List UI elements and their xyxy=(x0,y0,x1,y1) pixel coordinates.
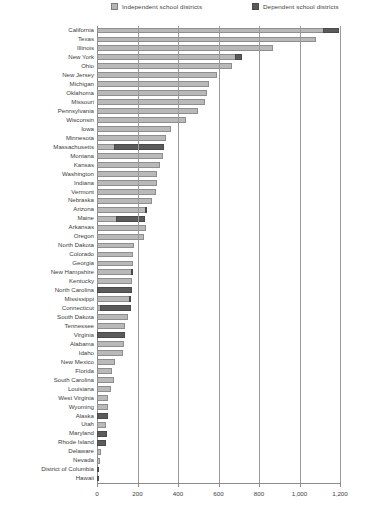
stacked-bar[interactable] xyxy=(97,54,242,60)
stacked-bar[interactable] xyxy=(97,72,217,78)
gridline xyxy=(178,26,179,483)
category-label: Washington xyxy=(62,171,94,177)
stacked-bar[interactable] xyxy=(97,476,99,482)
stacked-bar[interactable] xyxy=(97,135,166,141)
stacked-bar[interactable] xyxy=(97,440,106,446)
legend-label-dependent: Dependent school districts xyxy=(263,3,339,10)
category-label: Ohio xyxy=(81,63,94,69)
gridline xyxy=(340,26,341,483)
category-label: Texas xyxy=(78,36,94,42)
stacked-bar[interactable] xyxy=(97,198,152,204)
category-label: Oklahoma xyxy=(66,90,94,96)
stacked-bar[interactable] xyxy=(97,431,107,437)
stacked-bar[interactable] xyxy=(97,359,115,365)
bar-segment-dependent xyxy=(145,207,147,213)
stacked-bar[interactable] xyxy=(97,37,316,43)
stacked-bar[interactable] xyxy=(97,332,125,338)
category-label: New York xyxy=(68,54,94,60)
x-tick xyxy=(259,483,260,487)
stacked-bar[interactable] xyxy=(97,467,99,473)
stacked-bar[interactable] xyxy=(97,243,134,249)
category-label: Tennessee xyxy=(65,323,94,329)
category-label: Alaska xyxy=(76,413,94,419)
x-tick xyxy=(340,483,341,487)
legend-swatch-dependent-icon xyxy=(252,3,259,10)
stacked-bar[interactable] xyxy=(97,269,133,275)
stacked-bar[interactable] xyxy=(97,261,133,267)
stacked-bar[interactable] xyxy=(97,449,101,455)
bar-segment-dependent xyxy=(116,216,144,222)
stacked-bar[interactable] xyxy=(97,341,124,347)
bar-segment-independent xyxy=(97,252,133,258)
bar-segment-independent xyxy=(97,350,123,356)
bar-segment-independent xyxy=(97,117,186,123)
stacked-bar[interactable] xyxy=(97,404,108,410)
bar-segment-independent xyxy=(97,189,156,195)
category-label: Idaho xyxy=(79,350,94,356)
bar-segment-dependent xyxy=(97,476,99,482)
x-tick-label: 200 xyxy=(132,490,142,497)
stacked-bar[interactable] xyxy=(97,90,207,96)
bar-segment-independent xyxy=(97,108,198,114)
bar-segment-independent xyxy=(97,63,232,69)
x-tick-label: 400 xyxy=(173,490,183,497)
stacked-bar[interactable] xyxy=(97,287,132,293)
stacked-bar[interactable] xyxy=(97,323,125,329)
stacked-bar[interactable] xyxy=(97,413,108,419)
category-label: Oregon xyxy=(74,233,94,239)
category-label: Georgia xyxy=(72,260,94,266)
stacked-bar[interactable] xyxy=(97,171,157,177)
category-label: Colorado xyxy=(69,251,94,257)
category-label: Kansas xyxy=(74,162,94,168)
stacked-bar[interactable] xyxy=(97,458,100,464)
stacked-bar[interactable] xyxy=(97,162,160,168)
stacked-bar[interactable] xyxy=(97,377,114,383)
stacked-bar[interactable] xyxy=(97,180,157,186)
stacked-bar[interactable] xyxy=(97,45,273,51)
bar-segment-independent xyxy=(97,422,106,428)
bar-segment-independent xyxy=(97,449,101,455)
stacked-bar[interactable] xyxy=(97,314,128,320)
stacked-bar[interactable] xyxy=(97,296,131,302)
bar-segment-independent xyxy=(97,45,273,51)
bar-segment-independent xyxy=(97,90,207,96)
bar-segment-independent xyxy=(97,404,108,410)
stacked-bar[interactable] xyxy=(97,305,131,311)
stacked-bar[interactable] xyxy=(97,386,111,392)
category-label: Nebraska xyxy=(68,197,94,203)
stacked-bar[interactable] xyxy=(97,99,205,105)
stacked-bar[interactable] xyxy=(97,81,209,87)
stacked-bar[interactable] xyxy=(97,278,132,284)
stacked-bar[interactable] xyxy=(97,395,108,401)
stacked-bar[interactable] xyxy=(97,422,106,428)
bar-segment-independent xyxy=(97,377,114,383)
stacked-bar[interactable] xyxy=(97,117,186,123)
stacked-bar[interactable] xyxy=(97,126,171,132)
x-tick xyxy=(219,483,220,487)
bar-segment-dependent xyxy=(323,28,339,34)
bar-segment-independent xyxy=(97,135,166,141)
bar-segment-independent xyxy=(97,216,116,222)
category-label: Minnesota xyxy=(66,135,94,141)
category-label: Nevada xyxy=(73,457,94,463)
stacked-bar[interactable] xyxy=(97,252,133,258)
stacked-bar[interactable] xyxy=(97,144,164,150)
bar-segment-independent xyxy=(97,314,128,320)
category-label: Wisconsin xyxy=(66,117,94,123)
plot-area: CaliforniaTexasIllinoisNew YorkOhioNew J… xyxy=(97,26,340,483)
category-label: Delaware xyxy=(68,448,94,454)
stacked-bar[interactable] xyxy=(97,108,198,114)
gridline xyxy=(300,26,301,483)
stacked-bar[interactable] xyxy=(97,350,123,356)
stacked-bar[interactable] xyxy=(97,207,147,213)
bar-segment-independent xyxy=(97,198,152,204)
category-label: Illinois xyxy=(77,45,94,51)
stacked-bar[interactable] xyxy=(97,368,112,374)
stacked-bar[interactable] xyxy=(97,189,156,195)
category-label: Indiana xyxy=(74,180,94,186)
stacked-bar[interactable] xyxy=(97,153,163,159)
stacked-bar[interactable] xyxy=(97,63,232,69)
category-label: Michigan xyxy=(70,81,94,87)
category-label: District of Columbia xyxy=(41,466,94,472)
bar-segment-independent xyxy=(97,386,111,392)
